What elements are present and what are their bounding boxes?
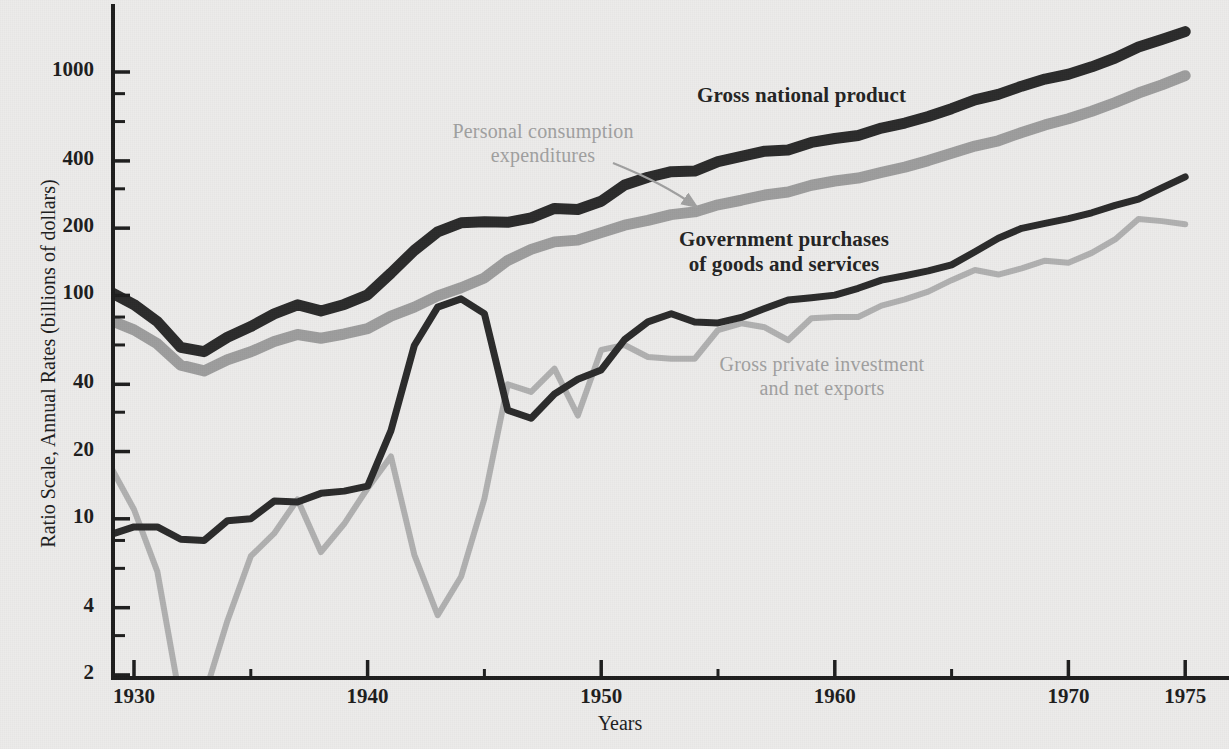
annotation-pce-line-2: expenditures (418, 143, 668, 167)
y-tick-label: 40 (14, 369, 94, 394)
annotation-gov-line-1: Government purchases (639, 227, 929, 252)
y-tick-label: 200 (14, 213, 94, 238)
y-tick-label: 20 (14, 437, 94, 462)
x-tick-label: 1970 (1023, 684, 1113, 709)
x-tick-label: 1960 (790, 684, 880, 709)
annotation-personal-consumption-expenditures: Personal consumption expenditures (418, 119, 668, 167)
y-tick-label: 10 (14, 504, 94, 529)
x-tick-label: 1975 (1140, 684, 1229, 709)
annotation-inv-line-1: Gross private investment (692, 352, 952, 376)
series-line-gross-private-investment-and-net-exports (111, 219, 1186, 703)
y-tick-label: 400 (14, 146, 94, 171)
x-tick-label: 1950 (556, 684, 646, 709)
annotation-pce-line-1: Personal consumption (418, 119, 668, 143)
x-axis-title: Years (540, 712, 700, 735)
x-tick-group (134, 660, 1185, 678)
annotation-gov-line-2: of goods and services (639, 252, 929, 277)
annotation-gross-national-product: Gross national product (697, 83, 906, 108)
y-tick-label: 100 (14, 280, 94, 305)
annotation-gross-private-investment: Gross private investment and net exports (692, 352, 952, 400)
y-tick-label: 1000 (14, 57, 94, 82)
series-line-gross-national-product (111, 32, 1186, 352)
x-tick-label: 1930 (89, 684, 179, 709)
annotation-inv-line-2: and net exports (692, 376, 952, 400)
y-tick-label: 2 (14, 660, 94, 685)
y-tick-label: 4 (14, 593, 94, 618)
x-tick-label: 1940 (323, 684, 413, 709)
y-tick-group (113, 72, 130, 675)
annotation-government-purchases: Government purchases of goods and servic… (639, 227, 929, 277)
chart-plot-area (0, 0, 1229, 749)
chart-figure: Ratio Scale, Annual Rates (billions of d… (0, 0, 1229, 749)
